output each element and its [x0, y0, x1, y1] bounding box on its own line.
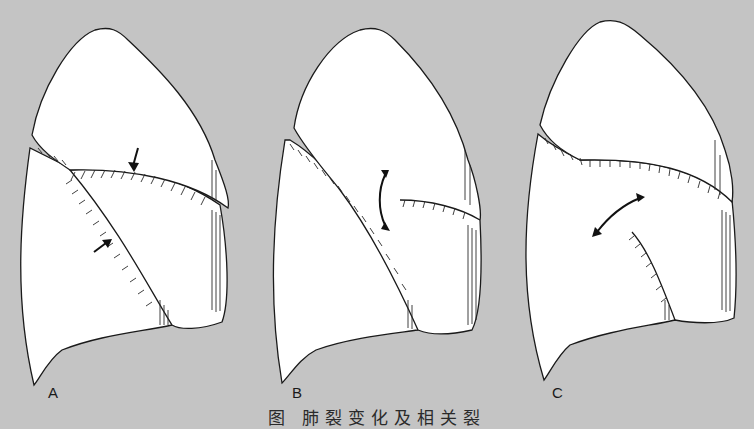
lung-diagram-b: [250, 0, 500, 400]
panel-label-a: A: [48, 384, 58, 401]
panel-label-b: B: [292, 384, 302, 401]
panel-label-c: C: [552, 384, 563, 401]
panel-a: A: [0, 0, 250, 400]
panel-b: B: [250, 0, 500, 400]
panel-c: C: [500, 0, 754, 400]
lung-diagram-c: [500, 0, 754, 400]
lung-diagram-a: [0, 0, 250, 400]
figure-caption: 图 肺裂变化及相关裂: [0, 404, 754, 429]
